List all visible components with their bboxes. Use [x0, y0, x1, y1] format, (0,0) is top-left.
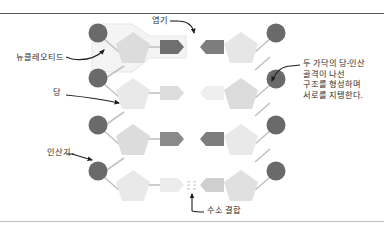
dna-structure-diagram — [0, 0, 384, 227]
phosphate-circle — [89, 69, 108, 88]
sugar-pentagon — [224, 170, 258, 201]
base-left — [160, 86, 184, 100]
label-phosphate: 인산기 — [47, 148, 71, 159]
backbone-note: 두 가닥의 당-인산 골격이 나선 구조를 형성하며 서로를 지탱한다. — [303, 59, 383, 101]
base-right — [200, 132, 224, 146]
sugar-pentagons-right — [224, 32, 258, 201]
base-right — [200, 40, 224, 54]
base-pair-row-4 — [160, 178, 224, 192]
sugar-leader-arrow — [66, 95, 119, 103]
base-right — [200, 178, 224, 192]
base-leader-arrow — [177, 21, 194, 33]
phosphate-circle — [267, 116, 286, 135]
label-base: 염기 — [152, 16, 168, 27]
backbone-note-leader-tail — [291, 65, 300, 66]
sugar-pentagons-left — [116, 32, 150, 201]
sugar-pentagon — [224, 78, 258, 109]
phosphate-circle — [89, 162, 108, 181]
nucleotide-leader-tail — [66, 57, 72, 59]
hydrogen-bond-dots — [187, 181, 196, 190]
label-hydrogen-bond: 수소 결합 — [207, 206, 241, 217]
sugar-pentagon — [224, 32, 258, 63]
phosphate-circle — [267, 24, 286, 43]
backbone-note-line-4: 서로를 지탱한다. — [303, 91, 383, 102]
sugar-pentagon — [116, 170, 150, 201]
phosphate-circle — [89, 24, 108, 43]
phosphate-circle — [89, 116, 108, 135]
label-nucleotide: 뉴클레오티드 — [16, 53, 63, 64]
sugar-pentagon — [224, 124, 258, 155]
figure-panel: 뉴클레오티드 당 인산기 염기 수소 결합 두 가닥의 당-인산 골격이 나선 … — [0, 0, 384, 227]
backbone-note-line-2: 골격이 나선 — [303, 70, 383, 81]
label-sugar: 당 — [53, 88, 61, 99]
phosphate-circles-right — [267, 24, 286, 181]
backbone-note-line-1: 두 가닥의 당-인산 — [303, 59, 383, 70]
hydrogen-bond-dots — [187, 135, 196, 144]
hydrogen-bond-dots — [187, 89, 196, 98]
hydrogen-bond-dots — [187, 43, 196, 52]
sugar-base-stems — [146, 47, 242, 185]
phosphate-circle — [267, 162, 286, 181]
sugar-pentagon — [116, 124, 150, 155]
hydrogen-bond-leader-tail — [192, 211, 204, 212]
base-pair-row-3 — [160, 132, 224, 146]
sugar-pentagon — [116, 78, 150, 109]
base-left — [160, 178, 184, 192]
phosphate-leader-arrow — [72, 154, 92, 160]
base-pair-row-2 — [160, 86, 224, 100]
base-pair-row-1 — [160, 40, 224, 54]
backbone-note-line-3: 구조를 형성하며 — [303, 80, 383, 91]
phosphate-circle — [267, 70, 286, 89]
base-right — [200, 86, 224, 100]
base-left — [160, 132, 184, 146]
